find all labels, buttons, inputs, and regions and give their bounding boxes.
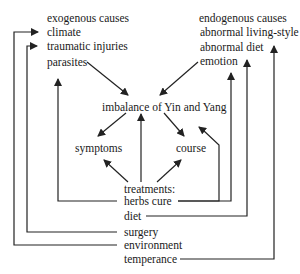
- diagram-canvas: exogenous causes climate traumatic injur…: [0, 0, 300, 274]
- cause-abnormal-diet: abnormal diet: [200, 41, 264, 54]
- treatment-surgery: surgery: [124, 226, 158, 239]
- line-herbs-to-imbalance: [178, 127, 219, 201]
- arrow-treatments-to-symptoms: [104, 160, 128, 182]
- line-herbs-to-parasites: [58, 79, 117, 201]
- arrow-imbalance-to-course: [164, 113, 184, 136]
- treatment-temperance: temperance: [124, 253, 177, 266]
- arrow-treatments-to-course: [157, 160, 181, 182]
- cause-climate: climate: [47, 26, 81, 39]
- arrow-endogenous-to-imbalance: [160, 62, 198, 95]
- treatment-herbs-cure: herbs cure: [124, 195, 172, 208]
- cause-emotion: emotion: [200, 55, 238, 68]
- cause-traumatic-injuries: traumatic injuries: [47, 40, 128, 53]
- exogenous-heading: exogenous causes: [47, 12, 129, 25]
- line-herbs-to-emotion: [178, 73, 231, 201]
- treatment-diet: diet: [124, 210, 141, 223]
- imbalance-yin-yang: imbalance of Yin and Yang: [102, 101, 226, 114]
- symptoms-label: symptoms: [75, 142, 122, 155]
- cause-abnormal-living-style: abnormal living-style: [200, 26, 299, 39]
- line-surgery-to-traumatic: [27, 46, 117, 232]
- cause-parasites: parasites: [47, 56, 87, 69]
- course-label: course: [176, 142, 206, 155]
- treatment-environment: environment: [124, 239, 182, 252]
- endogenous-heading: endogenous causes: [199, 12, 287, 25]
- arrow-imbalance-to-symptoms: [98, 113, 126, 136]
- arrow-exogenous-to-imbalance: [87, 62, 128, 95]
